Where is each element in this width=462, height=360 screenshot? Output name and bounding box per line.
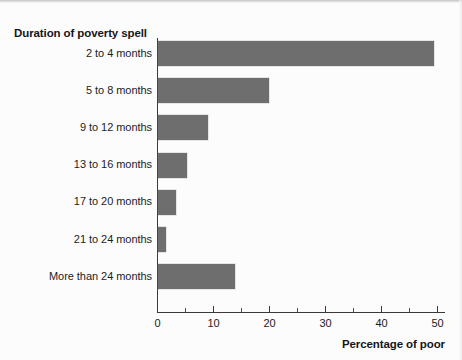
x-axis-minor-tick (409, 308, 410, 312)
x-axis-tick (157, 306, 158, 312)
x-axis-tick-label: 30 (319, 317, 331, 329)
category-label: 2 to 4 months (0, 47, 152, 59)
plot-area (157, 38, 445, 312)
x-axis-tick (213, 306, 214, 312)
x-axis-tick (437, 306, 438, 312)
bar (158, 115, 208, 140)
x-axis-minor-tick (185, 308, 186, 312)
x-axis-tick-label: 10 (207, 317, 219, 329)
x-axis-tick (325, 306, 326, 312)
category-label: 9 to 12 months (0, 121, 152, 133)
category-label: More than 24 months (0, 270, 152, 282)
bar (158, 41, 434, 66)
category-label: 17 to 20 months (0, 195, 152, 207)
category-label: 5 to 8 months (0, 84, 152, 96)
x-axis-minor-tick (241, 308, 242, 312)
bar (158, 153, 187, 178)
bar (158, 227, 166, 252)
x-axis-minor-tick (297, 308, 298, 312)
x-axis-tick-label: 0 (154, 317, 160, 329)
category-label: 21 to 24 months (0, 233, 152, 245)
x-axis-tick-label: 20 (263, 317, 275, 329)
bar (158, 190, 176, 215)
x-axis-tick-label: 40 (375, 317, 387, 329)
x-axis-minor-tick (353, 308, 354, 312)
x-axis-tick (381, 306, 382, 312)
value-axis-title: Percentage of poor (342, 338, 445, 350)
bar-chart-figure: Duration of poverty spell 2 to 4 months5… (0, 0, 462, 360)
x-axis-tick-label: 50 (431, 317, 443, 329)
category-label: 13 to 16 months (0, 158, 152, 170)
x-axis-tick (269, 306, 270, 312)
category-axis-labels: 2 to 4 months5 to 8 months9 to 12 months… (0, 0, 152, 360)
bar (158, 264, 235, 289)
bar (158, 78, 269, 103)
